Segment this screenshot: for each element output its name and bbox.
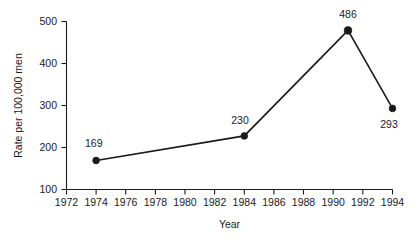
data-point: [93, 157, 100, 164]
data-point-label: 230: [231, 114, 249, 126]
x-tick-label: 1972: [55, 196, 79, 208]
data-point-label: 293: [380, 118, 398, 130]
y-tick-label: 500: [39, 15, 57, 27]
data-point-label: 486: [339, 8, 357, 20]
x-tick-label: 1980: [173, 196, 197, 208]
y-tick-label: 200: [39, 141, 57, 153]
x-tick-label: 1978: [144, 196, 168, 208]
x-tick-label: 1986: [262, 196, 286, 208]
x-tick-label: 1992: [351, 196, 375, 208]
x-tick-label: 1994: [381, 196, 405, 208]
x-tick-label: 1982: [203, 196, 227, 208]
x-tick-label: 1974: [84, 196, 108, 208]
chart-canvas: 100 200 300 400 500 1972 1974 1976 1: [0, 0, 418, 240]
x-tick-label: 1976: [114, 196, 138, 208]
x-axis-title: Year: [219, 218, 241, 230]
data-point-label: 169: [85, 137, 103, 149]
y-tick-label: 100: [39, 183, 57, 195]
x-tick-label: 1990: [322, 196, 346, 208]
data-point: [241, 133, 248, 140]
data-point: [344, 27, 352, 35]
data-point: [389, 105, 396, 112]
x-tick-label: 1984: [233, 196, 257, 208]
y-tick-label: 400: [39, 57, 57, 69]
x-tick-label: 1988: [292, 196, 316, 208]
y-tick-label: 300: [39, 99, 57, 111]
line-chart: 100 200 300 400 500 1972 1974 1976 1: [0, 0, 418, 240]
y-axis-title: Rate per 100,000 men: [12, 53, 24, 158]
